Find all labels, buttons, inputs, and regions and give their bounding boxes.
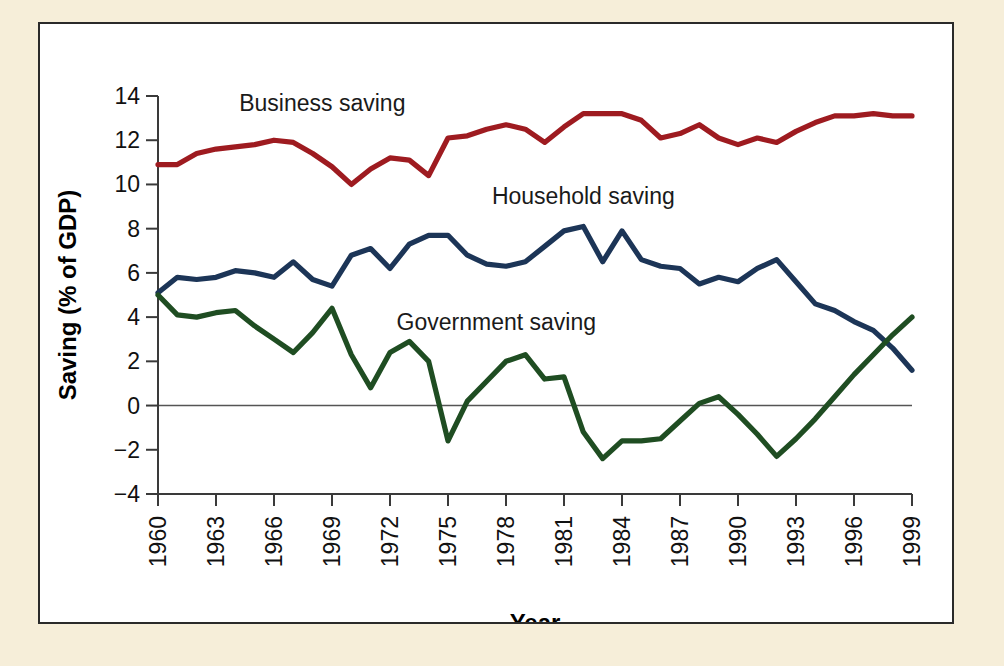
saving-line-chart: −4−2024681012141960196319661969197219751… xyxy=(40,24,952,622)
x-tick-label: 1960 xyxy=(145,516,171,567)
y-tick-label: 4 xyxy=(127,304,140,330)
x-tick-label: 1996 xyxy=(841,516,867,567)
series-label-household-saving: Household saving xyxy=(492,183,675,209)
y-tick-label: 14 xyxy=(114,83,140,109)
plot-area: −4−2024681012141960196319661969197219751… xyxy=(54,83,925,622)
x-axis-title: Year xyxy=(510,609,561,622)
y-tick-label: 2 xyxy=(127,348,140,374)
x-tick-label: 1966 xyxy=(261,516,287,567)
y-tick-label: 6 xyxy=(127,260,140,286)
series-line-household-saving xyxy=(158,226,912,370)
x-tick-label: 1981 xyxy=(551,516,577,567)
y-tick-label: 10 xyxy=(114,171,140,197)
x-tick-label: 1972 xyxy=(377,516,403,567)
series-label-government-saving: Government saving xyxy=(397,309,596,335)
x-tick-label: 1978 xyxy=(493,516,519,567)
x-tick-label: 1999 xyxy=(899,516,925,567)
x-tick-label: 1963 xyxy=(203,516,229,567)
x-tick-label: 1969 xyxy=(319,516,345,567)
y-axis-title: Saving (% of GDP) xyxy=(54,190,81,401)
x-tick-label: 1990 xyxy=(725,516,751,567)
x-tick-label: 1993 xyxy=(783,516,809,567)
x-tick-label: 1987 xyxy=(667,516,693,567)
y-tick-label: −4 xyxy=(114,481,140,507)
y-tick-label: 8 xyxy=(127,216,140,242)
y-tick-label: 0 xyxy=(127,393,140,419)
y-tick-label: 12 xyxy=(114,127,140,153)
x-tick-label: 1975 xyxy=(435,516,461,567)
y-tick-label: −2 xyxy=(114,437,140,463)
series-line-business-saving xyxy=(158,114,912,185)
figure-page: −4−2024681012141960196319661969197219751… xyxy=(0,0,1004,666)
series-label-business-saving: Business saving xyxy=(239,90,405,116)
chart-panel: −4−2024681012141960196319661969197219751… xyxy=(38,22,954,624)
x-tick-label: 1984 xyxy=(609,516,635,567)
